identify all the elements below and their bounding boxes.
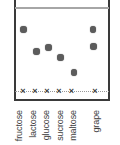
lane-label-lactose: lactose: [28, 110, 38, 138]
spot-grape-1: [90, 26, 97, 33]
spot-fructose: [20, 26, 27, 33]
origin-mark-grape: ×: [91, 86, 100, 97]
lane-label-grape: grape: [91, 110, 101, 133]
origin-mark-fructose: ×: [19, 86, 28, 97]
origin-mark-glucose: ×: [43, 86, 52, 97]
chromatography-figure: ×fructose×lactose×glucose×sucrose×maltos…: [0, 0, 120, 145]
spot-glucose: [45, 44, 52, 51]
origin-mark-maltose: ×: [67, 86, 76, 97]
lane-label-sucrose: sucrose: [55, 110, 65, 141]
spot-grape-2: [90, 43, 97, 50]
spot-sucrose: [57, 54, 64, 61]
solvent-front-line: [15, 7, 109, 9]
lane-label-maltose: maltose: [68, 110, 78, 141]
spot-lactose: [33, 48, 40, 55]
origin-mark-sucrose: ×: [55, 86, 64, 97]
origin-mark-lactose: ×: [31, 86, 40, 97]
lane-label-glucose: glucose: [41, 110, 51, 140]
lane-label-fructose: fructose: [14, 110, 24, 141]
